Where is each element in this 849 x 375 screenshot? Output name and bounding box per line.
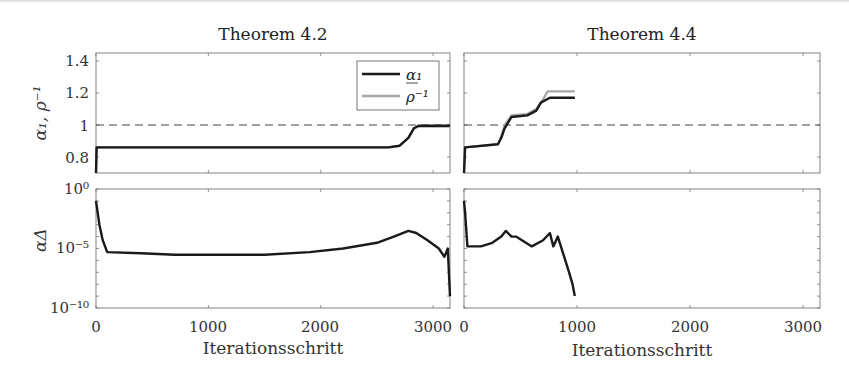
xtick-right-3000: 3000	[784, 318, 822, 336]
figure: Theorem 4.2 Theorem 4.4 α₁, ρ⁻¹ αΔ 1.4 1…	[0, 0, 849, 375]
ytick-1.4: 1.4	[65, 52, 89, 70]
xtick-left-3000: 3000	[414, 318, 452, 336]
bottom-ylabel: αΔ	[30, 228, 50, 252]
ytick-1.2: 1.2	[65, 84, 89, 102]
title-right: Theorem 4.4	[587, 24, 696, 44]
xtick-right-1000: 1000	[558, 318, 596, 336]
ytick-1e-5: 10⁻⁵	[56, 239, 89, 257]
axes-box	[96, 189, 450, 308]
panel-bottom-right	[464, 189, 820, 308]
xtick-left-0: 0	[91, 318, 101, 336]
bottom-ylabel-text: αΔ	[30, 228, 50, 252]
legend-label-alpha: α₁	[406, 66, 422, 84]
axes-box	[464, 189, 820, 308]
ytick-0.8: 0.8	[65, 149, 89, 167]
xtick-right-2000: 2000	[671, 318, 709, 336]
panel-top-right	[464, 53, 820, 173]
panel-bottom-left	[96, 189, 450, 308]
ytick-1e-10: 10⁻¹⁰	[50, 299, 89, 317]
title-left: Theorem 4.2	[218, 24, 327, 44]
top-ylabel-text: α₁, ρ⁻¹	[30, 86, 50, 141]
top-ylabel: α₁, ρ⁻¹	[30, 86, 50, 141]
axes-box	[464, 53, 820, 173]
xtick-right-0: 0	[459, 318, 469, 336]
xlabel-left: Iterationsschritt	[203, 338, 344, 358]
ytick-1: 1	[79, 117, 89, 135]
plot-area	[96, 53, 820, 308]
xlabel-right: Iterationsschritt	[572, 340, 713, 360]
ytick-1e0: 10⁰	[64, 180, 89, 198]
legend-label-rho: ρ⁻¹	[405, 88, 429, 106]
xtick-left-1000: 1000	[189, 318, 227, 336]
xtick-left-2000: 2000	[301, 318, 339, 336]
legend: α₁ ρ⁻¹	[357, 61, 439, 110]
